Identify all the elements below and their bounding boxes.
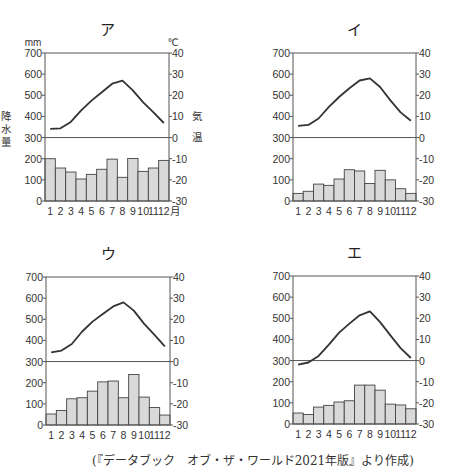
month-label: 8 [367,428,373,440]
right-tick-label: 20 [419,312,431,324]
right-tick-label: 40 [419,270,431,282]
precipitation-bar [334,402,344,424]
right-tick-label: -10 [419,376,434,388]
left-tick-label: 200 [272,376,290,388]
precipitation-bar [355,385,365,424]
precipitation-bar [303,414,313,424]
left-tick-label: 600 [272,291,290,303]
month-label: 7 [357,428,363,440]
left-tick-label: 400 [272,333,290,345]
left-tick-label: 100 [272,397,290,409]
precipitation-bar [344,401,354,424]
right-tick-label: 10 [419,333,431,345]
precipitation-bar [375,390,385,424]
month-label: 6 [346,428,352,440]
right-tick-label: 0 [419,355,425,367]
precipitation-bar [396,405,406,424]
right-tick-label: 30 [419,291,431,303]
month-label: 1 [295,428,301,440]
source-caption: (『データブック オブ・ザ・ワールド2021年版』より作成) [92,451,414,468]
month-label: 12 [405,428,417,440]
month-label: 2 [305,428,311,440]
month-label: 5 [336,428,342,440]
left-tick-label: 700 [272,270,290,282]
precipitation-bar [406,409,416,424]
chart-svg: エ0100200300400500600700-30-20-1001020304… [0,0,450,473]
precipitation-bar [365,385,375,424]
precipitation-bars [293,385,416,424]
month-label: 3 [316,428,322,440]
left-tick-label: 300 [272,355,290,367]
left-tick-label: 0 [284,418,290,430]
precipitation-bar [314,407,324,424]
precipitation-bar [385,404,395,424]
temperature-line [298,311,411,364]
precipitation-bar [324,405,334,424]
month-label: 9 [377,428,383,440]
right-tick-label: -20 [419,397,434,409]
chart-title: エ [347,244,362,262]
left-tick-label: 500 [272,312,290,324]
precipitation-bar [293,413,303,424]
month-label: 4 [326,428,332,440]
right-tick-label: -30 [419,418,434,430]
